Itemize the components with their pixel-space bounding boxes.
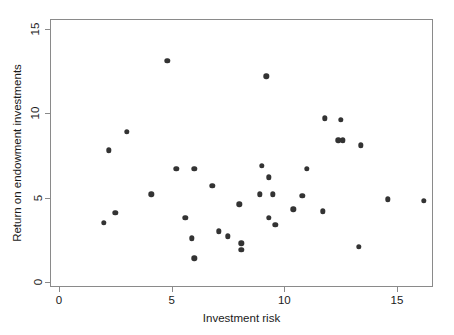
plot-frame bbox=[50, 19, 433, 287]
x-axis-title: Investment risk bbox=[50, 312, 433, 324]
y-tick-mark bbox=[45, 282, 50, 283]
x-tick-label: 10 bbox=[278, 294, 291, 306]
x-tick-mark bbox=[172, 287, 173, 292]
y-axis-title-text: Return on endowment investments bbox=[11, 64, 23, 242]
x-tick-mark bbox=[284, 287, 285, 292]
y-tick-label: 5 bbox=[35, 192, 41, 204]
y-tick-mark bbox=[45, 198, 50, 199]
x-tick-label: 15 bbox=[391, 294, 404, 306]
y-tick-mark bbox=[45, 29, 50, 30]
y-tick-label: 10 bbox=[28, 107, 41, 119]
y-tick-label: 15 bbox=[28, 23, 41, 35]
y-axis-title: Return on endowment investments bbox=[10, 19, 24, 287]
x-tick-label: 5 bbox=[168, 294, 174, 306]
y-tick-label: 0 bbox=[35, 276, 41, 288]
y-tick-mark bbox=[45, 113, 50, 114]
scatter-plot-figure: Investment risk Return on endowment inve… bbox=[0, 0, 454, 335]
x-tick-label: 0 bbox=[56, 294, 62, 306]
x-tick-mark bbox=[59, 287, 60, 292]
x-tick-mark bbox=[397, 287, 398, 292]
